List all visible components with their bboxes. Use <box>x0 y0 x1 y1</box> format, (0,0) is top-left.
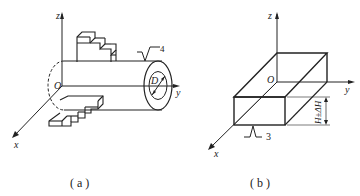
x-label-a: x <box>13 139 19 150</box>
origin-label-b: O <box>267 74 274 85</box>
x-label-b: x <box>213 148 219 159</box>
roughness-label-b: 3 <box>266 131 271 142</box>
origin-label-a: O <box>54 80 61 91</box>
x-axis-a <box>14 86 62 136</box>
height-tolerance-label: H±ΔH <box>313 100 323 125</box>
diagram-canvas: z y x O D 4 z y x O 3 H±ΔH <box>0 0 360 196</box>
y-label-b: y <box>344 84 350 95</box>
caption-a: ( a ) <box>70 176 89 191</box>
z-label-a: z <box>55 10 60 21</box>
z-axis-arrow-a <box>60 12 64 19</box>
diameter-label: D <box>150 75 159 86</box>
roughness-label-a: 4 <box>160 44 165 54</box>
y-label-a: y <box>175 87 181 98</box>
z-label-b: z <box>267 10 272 21</box>
caption-b: ( b ) <box>250 176 270 191</box>
